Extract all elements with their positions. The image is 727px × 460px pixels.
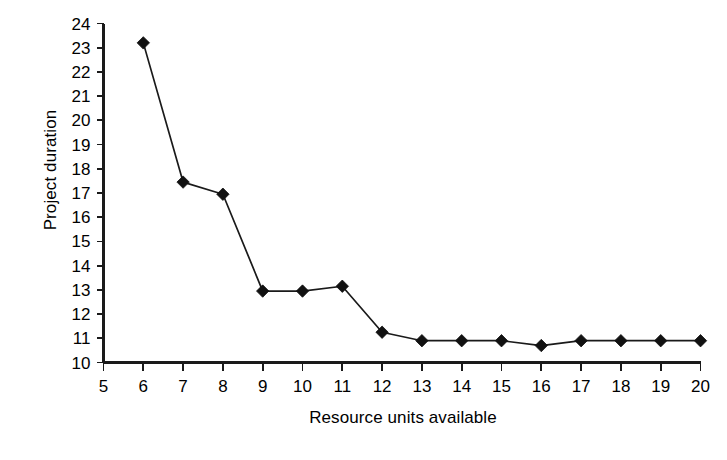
- line-chart: Project duration Resource units availabl…: [0, 0, 727, 460]
- y-tick-label: 22: [72, 63, 91, 82]
- x-tick-label: 15: [492, 377, 511, 396]
- data-point-marker: [177, 176, 189, 188]
- x-tick-label: 19: [651, 377, 670, 396]
- x-tick-label: 8: [218, 377, 227, 396]
- data-point-marker: [217, 188, 229, 200]
- y-tick-label: 13: [72, 281, 91, 300]
- data-point-marker: [694, 335, 706, 347]
- x-tick-label: 11: [333, 377, 351, 396]
- y-tick-label: 24: [72, 15, 91, 34]
- x-tick-label: 13: [412, 377, 431, 396]
- data-point-marker: [296, 285, 308, 297]
- x-axis-ticks: 567891011121314151617181920: [99, 363, 710, 396]
- x-tick-label: 17: [572, 377, 591, 396]
- data-point-markers: [137, 37, 707, 352]
- x-tick-label: 20: [691, 377, 710, 396]
- data-point-marker: [137, 37, 149, 49]
- x-tick-label: 18: [611, 377, 630, 396]
- y-tick-label: 15: [72, 232, 91, 251]
- x-tick-label: 7: [178, 377, 187, 396]
- data-point-marker: [456, 335, 468, 347]
- y-tick-label: 16: [72, 208, 91, 227]
- y-tick-label: 10: [72, 354, 91, 373]
- y-tick-label: 12: [72, 305, 91, 324]
- y-tick-label: 18: [72, 160, 91, 179]
- data-point-marker: [575, 335, 587, 347]
- y-tick-label: 11: [73, 329, 91, 348]
- x-tick-label: 12: [373, 377, 392, 396]
- data-point-marker: [535, 339, 547, 351]
- x-tick-label: 14: [452, 377, 471, 396]
- y-tick-label: 19: [72, 136, 91, 155]
- y-axis-ticks: 101112131415161718192021222324: [72, 15, 104, 373]
- y-tick-label: 17: [72, 184, 91, 203]
- y-tick-label: 23: [72, 39, 91, 58]
- y-tick-label: 21: [72, 87, 91, 106]
- data-point-marker: [495, 335, 507, 347]
- x-tick-label: 6: [139, 377, 148, 396]
- data-point-marker: [416, 335, 428, 347]
- data-point-marker: [655, 335, 667, 347]
- y-tick-label: 14: [72, 257, 91, 276]
- data-point-marker: [615, 335, 627, 347]
- x-tick-label: 16: [532, 377, 551, 396]
- x-tick-label: 9: [258, 377, 267, 396]
- x-tick-label: 5: [99, 377, 108, 396]
- y-tick-label: 20: [72, 111, 91, 130]
- x-tick-label: 10: [293, 377, 312, 396]
- plot-area: 101112131415161718192021222324 567891011…: [0, 0, 727, 460]
- data-point-marker: [257, 285, 269, 297]
